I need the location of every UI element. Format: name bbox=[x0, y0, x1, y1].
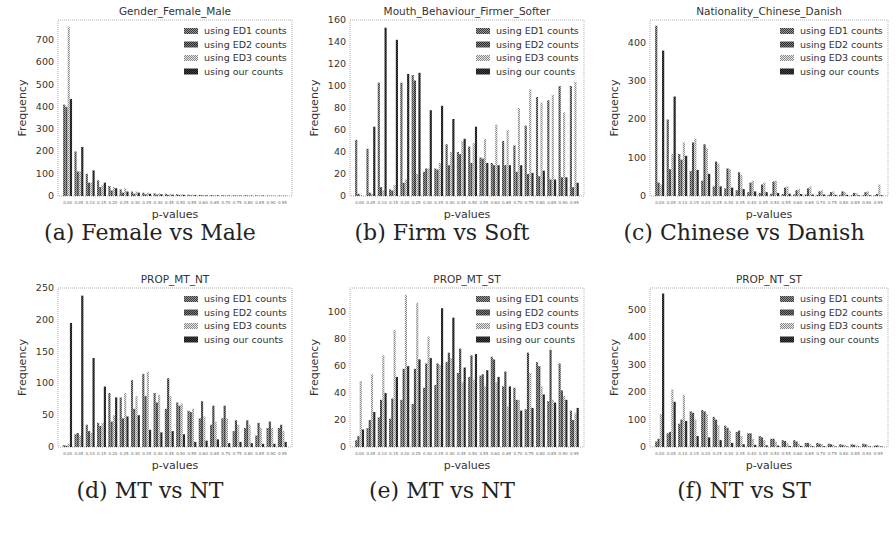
bar bbox=[373, 412, 375, 447]
y-tick-label: 600 bbox=[36, 56, 54, 67]
bar bbox=[131, 192, 133, 196]
x-tick-label: 0.35 bbox=[142, 451, 151, 456]
x-tick-label: 0.40 bbox=[154, 451, 163, 456]
bar bbox=[516, 172, 518, 196]
legend-label: using ED2 counts bbox=[496, 307, 579, 318]
y-tick-label: 150 bbox=[36, 346, 54, 357]
bar bbox=[239, 442, 241, 447]
bar bbox=[176, 402, 178, 447]
bar bbox=[660, 185, 662, 196]
bar bbox=[504, 165, 506, 196]
legend-swatch bbox=[184, 69, 198, 75]
bar bbox=[371, 374, 373, 447]
bar bbox=[224, 406, 226, 447]
y-tick-label: 300 bbox=[628, 359, 646, 370]
bar bbox=[68, 444, 70, 447]
bar bbox=[215, 195, 217, 196]
x-tick-label: 0.10 bbox=[678, 451, 687, 456]
bar bbox=[434, 385, 436, 447]
caption-c: (c) Chinese vs Danish bbox=[592, 220, 896, 245]
bar bbox=[178, 195, 180, 196]
bar bbox=[412, 404, 414, 447]
caption-f: (f) NT vs ST bbox=[592, 478, 896, 503]
bar bbox=[491, 163, 493, 196]
bar bbox=[113, 187, 115, 196]
bar bbox=[74, 151, 76, 196]
bar bbox=[671, 389, 673, 447]
bar bbox=[237, 195, 239, 196]
bar bbox=[468, 147, 470, 197]
legend-swatch bbox=[184, 310, 198, 316]
x-tick-label: 0.60 bbox=[199, 200, 208, 205]
bar bbox=[881, 195, 883, 196]
bar bbox=[142, 193, 144, 196]
bar bbox=[430, 358, 432, 447]
bar bbox=[70, 323, 72, 447]
x-tick-label: 0.60 bbox=[793, 451, 802, 456]
bar bbox=[244, 195, 246, 196]
x-tick-label: 0.15 bbox=[97, 200, 106, 205]
y-axis-label: Frequency bbox=[608, 79, 621, 136]
bar bbox=[113, 415, 115, 447]
x-tick-label: 0.05 bbox=[667, 451, 676, 456]
bar bbox=[561, 390, 563, 447]
bar bbox=[144, 396, 146, 447]
y-tick-label: 200 bbox=[628, 386, 646, 397]
bar bbox=[97, 180, 99, 196]
y-axis-label: Frequency bbox=[16, 339, 29, 396]
bar bbox=[754, 445, 756, 447]
bar bbox=[807, 443, 809, 447]
x-tick-label: 0.15 bbox=[690, 200, 699, 205]
x-tick-label: 0.20 bbox=[108, 200, 117, 205]
bar bbox=[138, 193, 140, 196]
bar bbox=[138, 415, 140, 447]
bar bbox=[362, 429, 364, 447]
bar bbox=[752, 439, 754, 447]
x-tick-label: 0.65 bbox=[805, 200, 814, 205]
y-tick-label: 300 bbox=[36, 123, 54, 134]
bar bbox=[538, 366, 540, 447]
bar bbox=[450, 152, 452, 196]
bar bbox=[371, 194, 373, 196]
bar bbox=[237, 425, 239, 447]
bar bbox=[187, 411, 189, 447]
bar bbox=[869, 446, 871, 447]
y-tick-label: 40 bbox=[334, 146, 346, 157]
y-tick-label: 60 bbox=[334, 124, 346, 135]
legend-swatch bbox=[476, 337, 490, 343]
x-tick-label: 0.45 bbox=[165, 200, 174, 205]
bar bbox=[669, 169, 671, 196]
bar bbox=[192, 195, 194, 196]
legend-swatch bbox=[780, 310, 794, 316]
bar bbox=[470, 355, 472, 447]
bar bbox=[271, 428, 273, 447]
bar bbox=[156, 195, 158, 196]
bar bbox=[662, 51, 664, 196]
bar bbox=[167, 195, 169, 196]
bar bbox=[703, 144, 705, 196]
bar bbox=[559, 363, 561, 447]
bar bbox=[452, 119, 454, 196]
bar bbox=[570, 86, 572, 196]
bar bbox=[846, 446, 848, 447]
x-tick-label: 0.45 bbox=[759, 451, 768, 456]
bar bbox=[726, 428, 728, 447]
x-tick-label: 0.40 bbox=[154, 200, 163, 205]
bar bbox=[830, 192, 832, 196]
chart-prop-nt-st: PROP_NT_ST0100200300400500Frequencyp-val… bbox=[592, 268, 896, 473]
bar bbox=[235, 420, 237, 447]
bar bbox=[251, 443, 253, 447]
bar bbox=[800, 194, 802, 196]
chart-title: PROP_MT_NT bbox=[141, 273, 210, 286]
bar bbox=[217, 195, 219, 196]
bar bbox=[701, 410, 703, 447]
bar bbox=[543, 394, 545, 447]
bar bbox=[536, 362, 538, 447]
x-tick-label: 0.65 bbox=[805, 451, 814, 456]
bar bbox=[412, 75, 414, 196]
bar bbox=[382, 355, 384, 447]
bar bbox=[459, 154, 461, 196]
bar bbox=[690, 171, 692, 196]
x-tick-label: 0.95 bbox=[874, 200, 883, 205]
legend-label: using ED3 counts bbox=[800, 52, 883, 63]
